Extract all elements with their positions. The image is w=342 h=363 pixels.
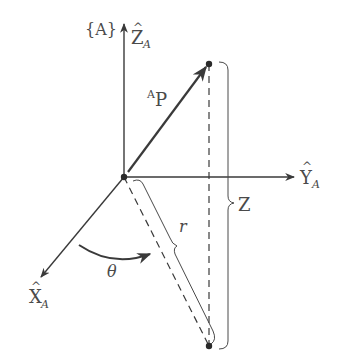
r-label: r bbox=[179, 217, 188, 236]
z-label: Z bbox=[238, 194, 251, 215]
svg-text:P: P bbox=[155, 89, 167, 110]
frame-label: {A} bbox=[85, 20, 117, 39]
z-brace bbox=[219, 62, 234, 349]
y-axis-label: Y ^ A bbox=[299, 160, 320, 191]
r-brace bbox=[133, 180, 215, 344]
svg-text:A: A bbox=[311, 178, 320, 191]
svg-text:A: A bbox=[142, 38, 151, 51]
vector-label: A P bbox=[146, 88, 167, 110]
z-axis-label: Z ^ A bbox=[131, 21, 151, 51]
vector-ap bbox=[128, 67, 206, 172]
svg-text:^: ^ bbox=[302, 160, 312, 174]
point-p bbox=[206, 61, 212, 67]
svg-text:^: ^ bbox=[133, 21, 143, 35]
theta-arc bbox=[79, 245, 150, 259]
origin-point bbox=[121, 174, 127, 180]
theta-label: θ bbox=[107, 262, 117, 281]
cylindrical-coordinates-diagram: {A} Z ^ A Y ^ A X ^ A A P r Z θ bbox=[0, 0, 342, 363]
radial-dashed-line bbox=[124, 177, 209, 346]
svg-text:A: A bbox=[40, 298, 49, 311]
svg-text:^: ^ bbox=[31, 280, 41, 294]
x-axis-label: X ^ A bbox=[29, 280, 49, 311]
